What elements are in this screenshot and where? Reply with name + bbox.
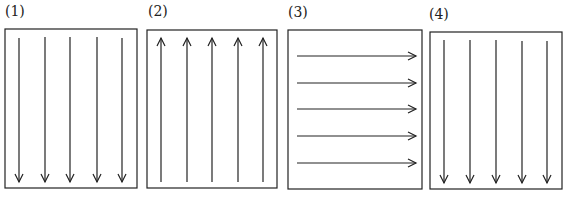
panel-3-arrows-right <box>297 52 416 167</box>
panel-1-arrows-down <box>15 37 126 182</box>
panel-4-arrows-down <box>440 40 551 183</box>
panel-2-arrows-up <box>157 38 267 182</box>
diagram-canvas <box>0 0 567 198</box>
panel-1-box <box>5 29 137 188</box>
